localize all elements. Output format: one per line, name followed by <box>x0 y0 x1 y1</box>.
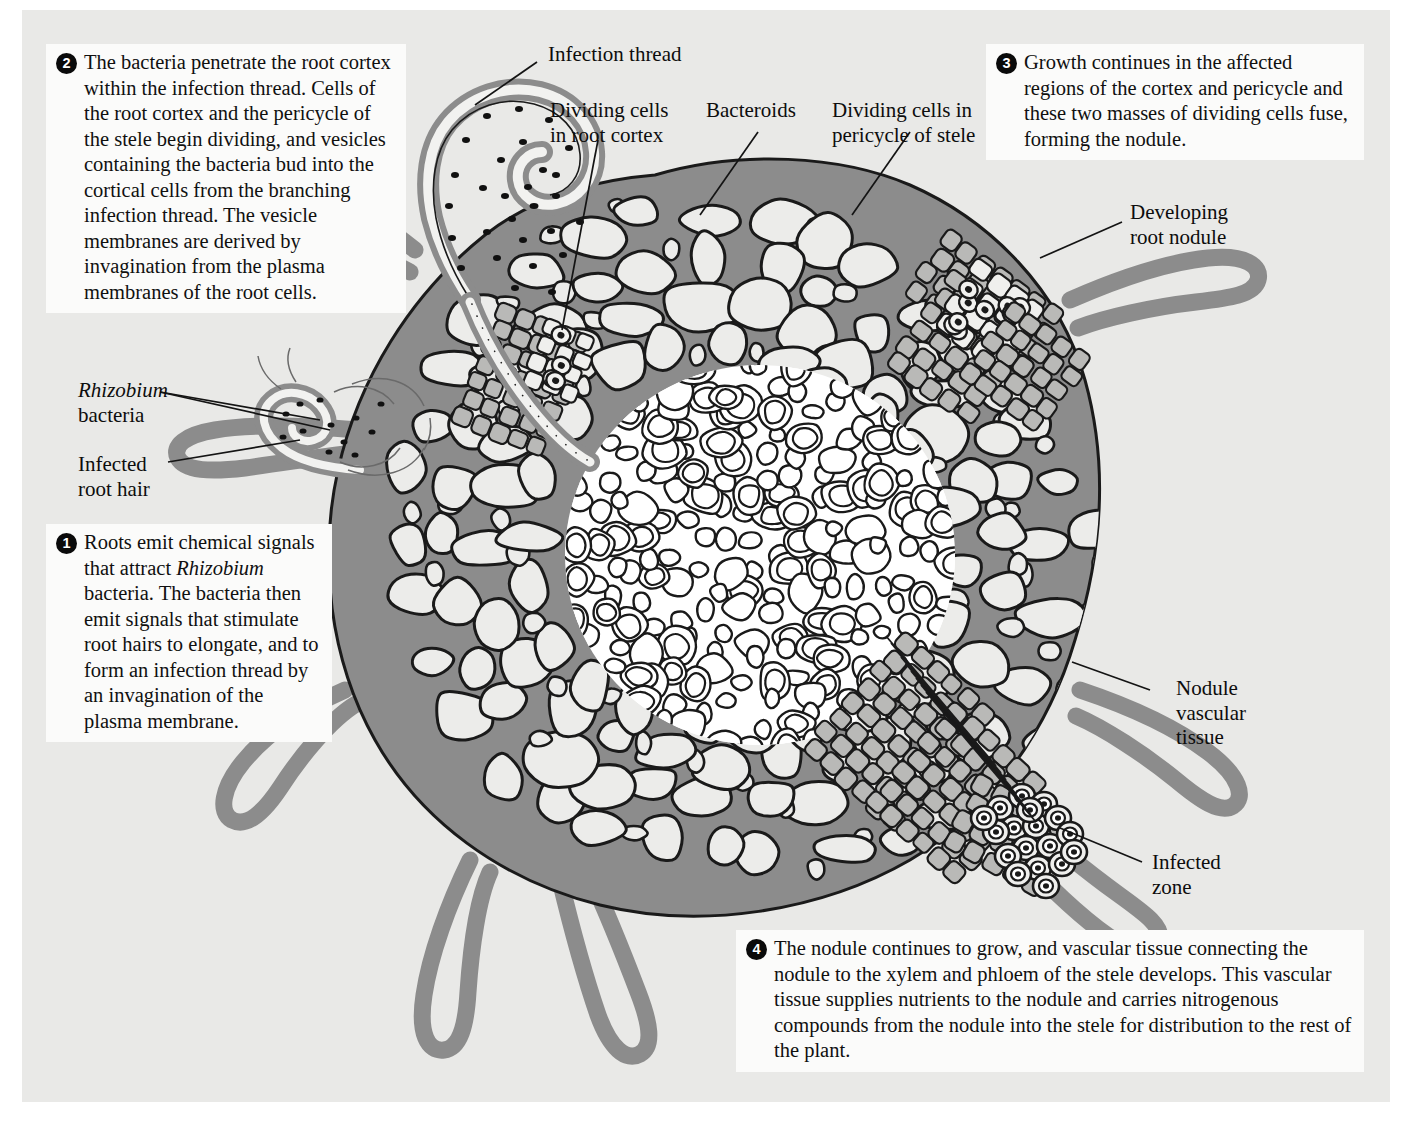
label-dividing-cells-cortex: Dividing cells in root cortex <box>550 98 668 147</box>
figure-page: Infection thread Dividing cells in root … <box>0 0 1412 1129</box>
caption-step-4-text: The nodule continues to grow, and vascul… <box>746 936 1354 1064</box>
step-number-3: 3 <box>996 53 1017 74</box>
caption-step-2-text: The bacteria penetrate the root cortex w… <box>56 50 396 305</box>
step-number-4: 4 <box>746 939 767 960</box>
label-infected-root-hair: Infected root hair <box>78 452 150 501</box>
label-infection-thread: Infection thread <box>548 42 682 67</box>
label-rhizobium-bacteria: Rhizobium bacteria <box>78 378 168 427</box>
caption-step-1: 1 Roots emit chemical signals that attra… <box>46 524 332 742</box>
label-infected-zone: Infected zone <box>1152 850 1221 899</box>
leader-developing-nodule <box>1040 222 1122 258</box>
caption-step-3-text: Growth continues in the affected regions… <box>996 50 1354 152</box>
caption-step-4: 4 The nodule continues to grow, and vasc… <box>736 930 1364 1072</box>
label-nodule-vascular-tissue: Nodule vascular tissue <box>1176 676 1246 750</box>
caption-step-2: 2 The bacteria penetrate the root cortex… <box>46 44 406 313</box>
label-developing-root-nodule: Developing root nodule <box>1130 200 1228 249</box>
label-bacteroids: Bacteroids <box>706 98 796 123</box>
label-dividing-cells-pericycle: Dividing cells in pericycle of stele <box>832 98 975 147</box>
caption-step-3: 3 Growth continues in the affected regio… <box>986 44 1364 160</box>
step-number-2: 2 <box>56 53 77 74</box>
step-number-1: 1 <box>56 533 77 554</box>
caption-step-1-text: Roots emit chemical signals that attract… <box>56 530 322 734</box>
